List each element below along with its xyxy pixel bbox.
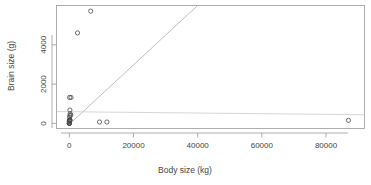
data-point bbox=[97, 120, 101, 124]
data-point bbox=[105, 120, 109, 124]
x-tick-label: 0 bbox=[67, 141, 72, 150]
y-tick-label: 2000 bbox=[39, 75, 48, 93]
data-point bbox=[89, 9, 93, 13]
scatter-plot-figure: 020000400006000080000 020004000 Body siz… bbox=[0, 0, 371, 185]
lines-layer bbox=[57, 6, 365, 124]
data-point bbox=[75, 31, 79, 35]
x-tick-label: 20000 bbox=[122, 141, 145, 150]
x-tick-label: 40000 bbox=[187, 141, 210, 150]
data-point bbox=[346, 118, 350, 122]
y-axis-title: Brain size (g) bbox=[6, 41, 16, 91]
x-tick-label: 60000 bbox=[251, 141, 274, 150]
reference-line bbox=[57, 112, 365, 115]
points-layer bbox=[67, 9, 350, 125]
x-axis-ticks: 020000400006000080000 bbox=[67, 133, 338, 150]
plot-frame bbox=[57, 6, 365, 129]
plot-canvas: 020000400006000080000 020004000 Body siz… bbox=[0, 0, 371, 185]
y-tick-label: 4000 bbox=[39, 35, 48, 53]
y-axis-ticks: 020004000 bbox=[39, 35, 56, 125]
regression-line bbox=[70, 6, 197, 124]
y-tick-label: 0 bbox=[39, 121, 48, 126]
x-tick-label: 80000 bbox=[315, 141, 338, 150]
x-axis-title: Body size (kg) bbox=[158, 165, 212, 175]
